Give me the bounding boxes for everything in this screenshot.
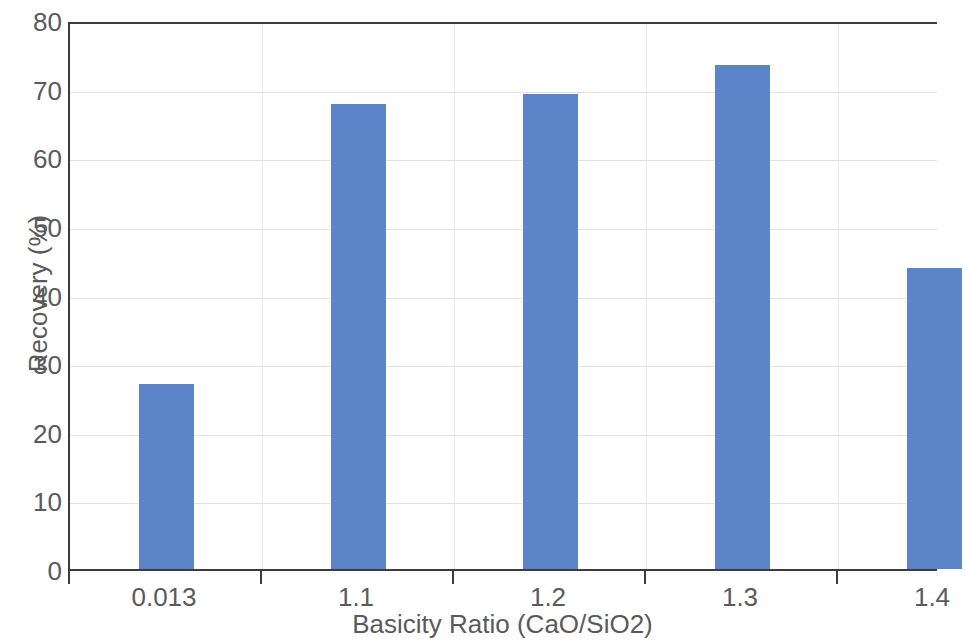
y-axis-tick-labels: 01020304050607080 [0,0,62,632]
y-axis-tick-label: 40 [4,284,62,310]
vertical-gridline [838,24,839,569]
horizontal-gridline [70,92,937,93]
bar [331,104,386,569]
bar [139,384,194,569]
y-axis-tick-label: 0 [4,558,62,584]
bar [523,94,578,569]
y-axis-tick-label: 60 [4,146,62,172]
y-axis-tick-label: 80 [4,9,62,35]
horizontal-gridline [70,298,937,299]
x-axis-tick-label: 1.3 [644,583,836,612]
x-axis-tick-label: 1.2 [452,583,644,612]
plot-area [68,22,937,571]
x-axis-tick-label: 0.013 [68,583,260,612]
bar [715,65,770,569]
y-axis-tick-label: 50 [4,215,62,241]
x-axis-tick-label: 1.4 [836,583,966,612]
x-axis-title: Basicity Ratio (CaO/SiO2) [68,609,937,640]
vertical-gridline [262,24,263,569]
y-axis-tick-label: 30 [4,352,62,378]
y-axis-tick-label: 70 [4,78,62,104]
y-axis-tick-label: 20 [4,421,62,447]
horizontal-gridline [70,160,937,161]
horizontal-gridline [70,435,937,436]
horizontal-gridline [70,366,937,367]
x-axis-tick-label: 1.1 [260,583,452,612]
vertical-gridline [646,24,647,569]
bar [907,268,962,569]
vertical-gridline [454,24,455,569]
horizontal-gridline [70,229,937,230]
y-axis-tick-label: 10 [4,489,62,515]
horizontal-gridline [70,503,937,504]
